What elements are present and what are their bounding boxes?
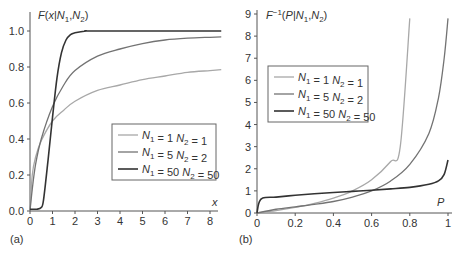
chart-canvas: 0123456780.00.20.40.60.81.0F(x|N1,N2)x(a… — [0, 0, 463, 254]
x-tick-label: 4 — [117, 215, 123, 227]
x-tick-label: 5 — [139, 215, 145, 227]
y-tick-label: 6 — [245, 74, 251, 86]
y-tick-label: 2 — [245, 163, 251, 175]
x-tick-label: 8 — [207, 215, 213, 227]
x-axis-label: x — [211, 196, 218, 208]
y-tick-label: 4 — [245, 119, 251, 131]
series-line-2 — [257, 160, 448, 213]
y-tick-label: 0.8 — [9, 61, 24, 73]
y-tick-label: 1 — [245, 185, 251, 197]
x-tick-label: 0.6 — [364, 217, 379, 229]
legend: N1 = 1 N2 = 1N1 = 5 N2 = 2N1 = 50 N2 = 5… — [268, 66, 375, 123]
x-tick-label: 1 — [445, 217, 451, 229]
x-tick-label: 7 — [184, 215, 190, 227]
legend: N1 = 1 N2 = 1N1 = 5 N2 = 2N1 = 50 N2 = 5… — [112, 124, 219, 181]
panel-b: 00.20.40.60.810123456789F−1(P|N1,N2)P(b)… — [239, 8, 452, 245]
panel-label: (a) — [10, 233, 23, 245]
y-tick-label: 0.2 — [9, 169, 24, 181]
x-tick-label: 0.2 — [288, 217, 303, 229]
x-tick-label: 0.4 — [326, 217, 341, 229]
y-tick-label: 0.4 — [9, 133, 24, 145]
y-tick-label: 9 — [245, 8, 251, 20]
panel-a: 0123456780.00.20.40.60.81.0F(x|N1,N2)x(a… — [9, 9, 222, 245]
y-axis-label: F(x|N1,N2) — [38, 9, 88, 24]
y-tick-label: 7 — [245, 52, 251, 64]
panel-label: (b) — [239, 233, 252, 245]
y-tick-label: 8 — [245, 30, 251, 42]
y-tick-label: 5 — [245, 96, 251, 108]
x-tick-label: 3 — [94, 215, 100, 227]
x-tick-label: 2 — [72, 215, 78, 227]
y-axis-label: F−1(P|N1,N2) — [266, 8, 327, 24]
x-tick-label: 1 — [49, 215, 55, 227]
y-tick-label: 0.0 — [9, 205, 24, 217]
x-tick-label: 0 — [27, 215, 33, 227]
series-line-2 — [30, 31, 221, 209]
y-tick-label: 0.6 — [9, 97, 24, 109]
x-axis-label: P — [437, 196, 445, 208]
y-tick-label: 0 — [245, 207, 251, 219]
x-tick-label: 0.8 — [402, 217, 417, 229]
x-tick-label: 0 — [254, 217, 260, 229]
x-tick-label: 6 — [162, 215, 168, 227]
y-tick-label: 3 — [245, 141, 251, 153]
y-tick-label: 1.0 — [9, 25, 24, 37]
